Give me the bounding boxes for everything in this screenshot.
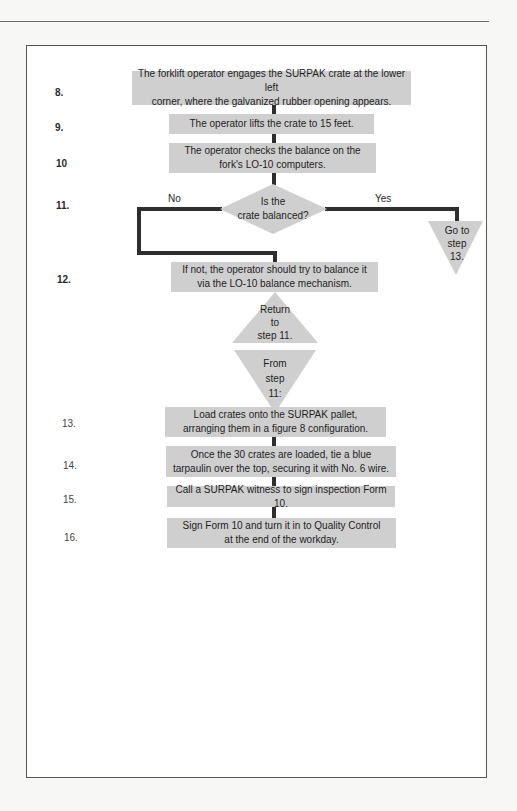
process-box-step-8: The forklift operator engages the SURPAK… [132, 71, 411, 105]
process-box-step-14: Once the 30 crates are loaded, tie a blu… [166, 446, 396, 477]
step-number-9: 9. [55, 122, 63, 133]
connector-9-10 [272, 134, 276, 143]
decision-text: Is the crate balanced? [223, 195, 323, 223]
step-number-14: 14. [63, 460, 77, 471]
connector-10-11 [272, 173, 276, 185]
step-number-12: 12. [57, 274, 71, 285]
step-number-10: 10 [56, 158, 67, 169]
process-box-step-16: Sign Form 10 and turn it in to Quality C… [167, 518, 396, 548]
process-box-step-13: Load crates onto the SURPAK pallet, arra… [165, 407, 386, 437]
yes-label: Yes [375, 193, 391, 204]
return-step-11-text: Return to step 11. [245, 303, 305, 342]
from-step-11-text: From step 11: [245, 356, 305, 401]
step-number-16: 16. [64, 532, 78, 543]
connector-13-14 [272, 437, 276, 446]
process-box-step-15: Call a SURPAK witness to sign inspection… [167, 486, 395, 507]
process-box-step-10: The operator checks the balance on the f… [169, 143, 376, 173]
yes-branch-path [325, 209, 457, 221]
step-number-8: 8. [55, 87, 63, 98]
step-number-11: 11. [56, 200, 69, 211]
process-box-step-9: The operator lifts the crate to 15 feet. [169, 114, 374, 134]
process-box-step-12: If not, the operator should try to balan… [171, 262, 378, 292]
step-number-15: 15. [63, 494, 77, 505]
no-label: No [168, 193, 181, 204]
goto-step-13-text: Go to step 13. [431, 224, 483, 263]
step-number-13: 13. [62, 418, 76, 429]
